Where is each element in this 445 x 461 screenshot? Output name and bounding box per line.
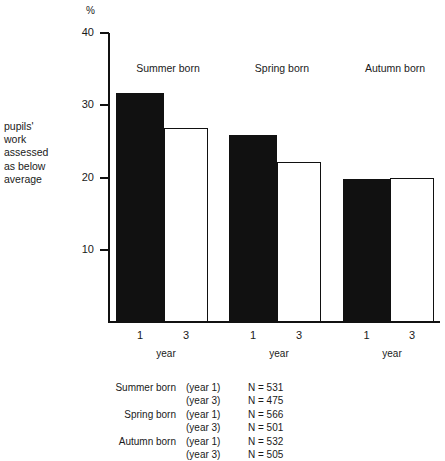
notes-year-label: (year 3) <box>176 394 236 407</box>
notes-sample-size: N = 532 <box>236 435 283 448</box>
x-axis-group-label: year <box>256 348 302 359</box>
bar-autumn-born-year-3 <box>390 178 434 322</box>
x-axis-tick-label: 1 <box>357 329 377 341</box>
x-axis-tick-label: 3 <box>289 329 309 341</box>
sample-size-notes: Summer born(year 1)N = 531(year 3)N = 47… <box>104 381 283 461</box>
notes-year-label: (year 1) <box>176 435 236 448</box>
bar-summer-born-year-1 <box>116 93 164 322</box>
notes-group-label: Summer born <box>104 381 176 394</box>
y-axis-title-line: assessed <box>4 146 80 159</box>
bar-group-header: Autumn born <box>345 62 445 74</box>
notes-row: Summer born(year 1)N = 531 <box>104 381 283 394</box>
notes-year-label: (year 1) <box>176 408 236 421</box>
x-axis-tick-label: 1 <box>130 329 150 341</box>
bar-spring-born-year-1 <box>229 135 277 322</box>
x-axis-group-label: year <box>369 348 415 359</box>
notes-year-label: (year 3) <box>176 448 236 461</box>
notes-row: (year 3)N = 505 <box>104 448 283 461</box>
x-axis-tick-label: 3 <box>402 329 422 341</box>
y-axis-tick-mark <box>100 177 109 179</box>
y-axis-tick-mark <box>100 104 109 106</box>
y-axis-tick-label: 10 <box>68 244 94 255</box>
y-axis-tick-mark <box>100 249 109 251</box>
x-axis-tick-label: 3 <box>176 329 196 341</box>
y-axis-unit-label: % <box>86 5 95 16</box>
notes-row: (year 3)N = 475 <box>104 394 283 407</box>
notes-group-label <box>104 394 176 407</box>
y-axis-title-line: average <box>4 173 80 186</box>
bar-group-header: Summer born <box>118 62 218 74</box>
y-axis-title-line: work <box>4 133 80 146</box>
y-axis-tick-label: 30 <box>68 99 94 110</box>
y-axis-tick-label: 40 <box>68 27 94 38</box>
y-axis-tick-mark <box>100 32 109 34</box>
notes-row: Autumn born(year 1)N = 532 <box>104 435 283 448</box>
notes-group-label <box>104 421 176 434</box>
notes-group-label <box>104 448 176 461</box>
notes-sample-size: N = 505 <box>236 448 283 461</box>
y-axis-title-line: as below <box>4 160 80 173</box>
notes-row: (year 3)N = 501 <box>104 421 283 434</box>
x-axis-group-label: year <box>143 348 189 359</box>
y-axis-title-line: pupils' <box>4 120 80 133</box>
notes-sample-size: N = 531 <box>236 381 283 394</box>
notes-year-label: (year 1) <box>176 381 236 394</box>
x-axis-tick-label: 1 <box>243 329 263 341</box>
bar-group-header: Spring born <box>232 62 332 74</box>
notes-year-label: (year 3) <box>176 421 236 434</box>
notes-sample-size: N = 475 <box>236 394 283 407</box>
bar-summer-born-year-3 <box>164 128 208 322</box>
notes-group-label: Spring born <box>104 408 176 421</box>
bar-spring-born-year-3 <box>277 162 321 322</box>
notes-sample-size: N = 566 <box>236 408 283 421</box>
bar-autumn-born-year-1 <box>343 179 390 322</box>
notes-sample-size: N = 501 <box>236 421 283 434</box>
notes-group-label: Autumn born <box>104 435 176 448</box>
notes-row: Spring born(year 1)N = 566 <box>104 408 283 421</box>
y-axis-title: pupils' work assessed as below average <box>4 120 80 186</box>
